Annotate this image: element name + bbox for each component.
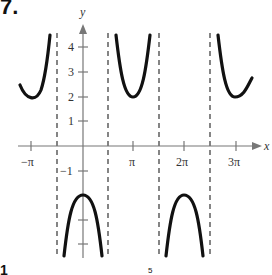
bottom-fragment-middle: 5 [148, 266, 152, 275]
x-axis-label: x [263, 139, 270, 153]
graph: −π π 2π 3π 4 3 2 1 −1 y x [0, 0, 272, 275]
tick-y4: 4 [68, 40, 74, 54]
tick-yneg1: −1 [60, 164, 73, 178]
tick-2pi: 2π [176, 155, 188, 169]
y-axis-arrow-icon [79, 24, 87, 34]
tick-3pi: 3π [228, 155, 240, 169]
curve-branch-5 [166, 195, 203, 256]
curve-branch-3 [218, 35, 252, 97]
tick-pi: π [129, 155, 135, 169]
bottom-fragment-left: 1 [0, 262, 8, 275]
tick-neg-pi: −π [21, 155, 34, 169]
axes [18, 30, 255, 258]
tick-y1: 1 [68, 114, 74, 128]
tick-y2: 2 [68, 90, 74, 104]
tick-y3: 3 [68, 65, 74, 79]
curve-branch-2 [116, 35, 150, 97]
x-axis-arrow-icon [252, 142, 262, 150]
y-axis-label: y [79, 5, 86, 19]
curve-branch-1 [20, 35, 50, 98]
